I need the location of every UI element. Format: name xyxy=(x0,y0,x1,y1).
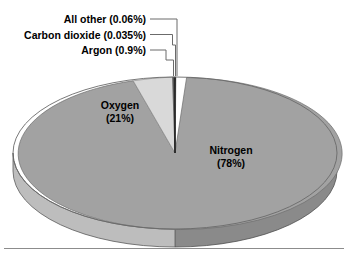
leader-line-carbon-dioxide xyxy=(150,35,176,77)
pie-slice-nitrogen xyxy=(18,78,342,230)
slice-label-nitrogen-value: (78%) xyxy=(186,157,276,170)
callout-label-argon: Argon (0.9%) xyxy=(0,43,148,59)
slice-label-nitrogen-name: Nitrogen xyxy=(186,144,276,157)
slice-label-oxygen: Oxygen (21%) xyxy=(78,99,162,124)
leader-lines xyxy=(150,19,177,76)
callout-label-all-other: All other (0.06%) xyxy=(0,12,148,28)
pie-chart-figure: All other (0.06%) Carbon dioxide (0.035%… xyxy=(0,0,349,257)
callout-label-carbon-dioxide: Carbon dioxide (0.035%) xyxy=(0,28,148,44)
slice-label-oxygen-name: Oxygen xyxy=(78,99,162,112)
slice-label-nitrogen: Nitrogen (78%) xyxy=(186,144,276,169)
pie-top-face xyxy=(13,77,342,230)
leader-line-all-other xyxy=(150,19,177,76)
callout-label-group: All other (0.06%) Carbon dioxide (0.035%… xyxy=(0,12,148,59)
leader-line-argon xyxy=(150,50,174,76)
slice-label-oxygen-value: (21%) xyxy=(78,112,162,125)
